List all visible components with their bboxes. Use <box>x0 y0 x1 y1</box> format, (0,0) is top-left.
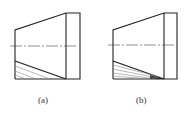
figure-b-hatching <box>113 65 160 79</box>
figure-a-label: (a) <box>38 95 48 105</box>
figure-b-label: (b) <box>136 95 147 105</box>
figure-a-bottom-slant <box>15 61 66 79</box>
figure-a-hatching <box>15 66 50 79</box>
figure-a <box>10 13 80 79</box>
figure-b <box>108 13 177 79</box>
figure-b-outline <box>113 13 177 79</box>
diagram-canvas <box>0 0 185 114</box>
